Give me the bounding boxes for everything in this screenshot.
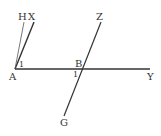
label-X: X xyxy=(28,11,36,22)
label-A: A xyxy=(8,71,17,82)
geometry-diagram: H X Z A B Y G 1 1 xyxy=(0,0,161,136)
label-B: B xyxy=(75,58,82,69)
label-Y: Y xyxy=(146,71,154,82)
angle-1-at-A: 1 xyxy=(19,60,24,69)
label-G: G xyxy=(60,117,68,128)
line-AX xyxy=(15,22,34,69)
angle-1-at-B: 1 xyxy=(73,70,78,79)
label-Z: Z xyxy=(96,11,103,22)
label-H: H xyxy=(18,11,27,22)
